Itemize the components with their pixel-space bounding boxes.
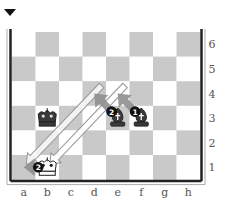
square-d5 [83,57,107,82]
file-label-b: b [44,186,51,199]
square-f5 [130,57,154,82]
square-h2 [177,130,201,155]
square-f2 [130,130,154,155]
move-number-label: 2 [109,108,114,117]
square-a5 [12,57,36,82]
square-h4 [177,81,201,106]
rank-label-6: 6 [209,38,216,51]
move-number-label: 1 [132,108,137,117]
square-e1 [106,155,130,180]
rank-label-3: 3 [209,112,216,125]
file-label-a: a [20,186,27,199]
square-a4 [12,81,36,106]
square-b5 [36,57,60,82]
square-f6 [130,32,154,57]
file-label-h: h [185,186,192,199]
square-c5 [59,57,83,82]
move-number-label: 2 [36,163,41,172]
square-a6 [12,32,36,57]
square-g1 [153,155,177,180]
file-label-f: f [139,186,144,199]
rank-label-1: 1 [209,161,216,174]
square-g4 [153,81,177,106]
square-h6 [177,32,201,57]
square-d6 [83,32,107,57]
square-b6 [36,32,60,57]
square-g6 [153,32,177,57]
square-f1 [130,155,154,180]
square-e5 [106,57,130,82]
square-a3 [12,106,36,131]
square-h3 [177,106,201,131]
chess-diagram: 654321abcdefgh122 [0,0,225,200]
square-b4 [36,81,60,106]
square-e2 [106,130,130,155]
file-label-g: g [161,186,168,199]
chess-board: 654321abcdefgh122 [0,0,225,200]
square-e6 [106,32,130,57]
square-g2 [153,130,177,155]
rank-label-5: 5 [209,63,216,76]
square-h5 [177,57,201,82]
square-d2 [83,130,107,155]
square-f4 [130,81,154,106]
square-c4 [59,81,83,106]
square-g3 [153,106,177,131]
square-a2 [12,130,36,155]
rank-label-4: 4 [209,88,216,101]
rank-label-2: 2 [209,137,216,150]
file-label-d: d [91,186,98,199]
file-label-e: e [114,186,121,199]
square-c6 [59,32,83,57]
square-d1 [83,155,107,180]
square-g5 [153,57,177,82]
square-h1 [177,155,201,180]
square-c1 [59,155,83,180]
file-label-c: c [68,186,74,199]
